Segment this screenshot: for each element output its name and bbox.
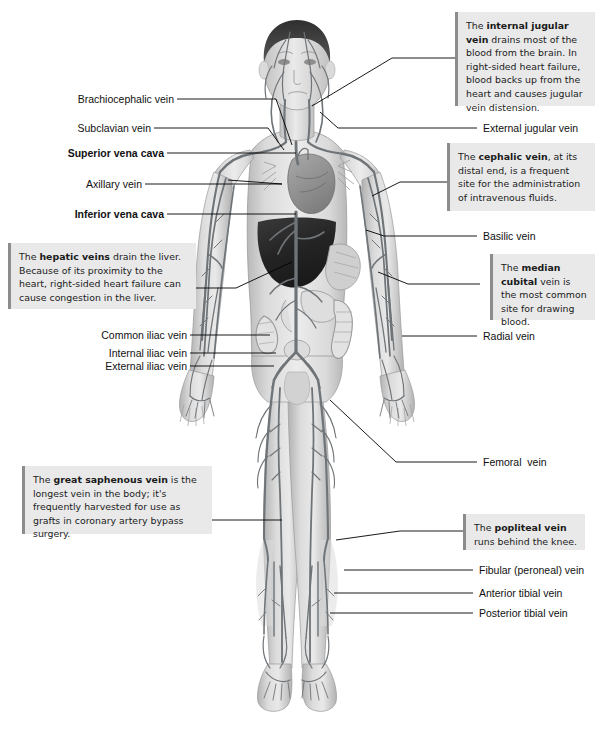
label-inferior-vena-cava: Inferior vena cava <box>75 208 164 220</box>
note-lead-text: The <box>501 262 521 273</box>
label-internal-iliac-vein: Internal iliac vein <box>109 347 187 359</box>
veins-diagram-canvas: Brachiocephalic vein Subclavian vein Sup… <box>0 0 595 734</box>
note-hepatic-veins: The hepatic veins drain the liver. Becau… <box>8 243 196 309</box>
note-lead-text: The <box>33 474 53 485</box>
note-great-saphenous-vein: The great saphenous vein is the longest … <box>22 466 212 534</box>
label-basilic-vein: Basilic vein <box>483 230 536 242</box>
note-popliteal-vein: The popliteal vein runs behind the knee. <box>463 514 585 550</box>
note-lead-text: The <box>458 151 478 162</box>
note-term: hepatic veins <box>39 251 110 262</box>
note-lead-text: The <box>474 522 494 533</box>
label-axillary-vein: Axillary vein <box>86 178 142 190</box>
label-anterior-tibial-vein: Anterior tibial vein <box>479 587 562 599</box>
note-lead-text: The <box>466 20 486 31</box>
label-subclavian-vein: Subclavian vein <box>77 122 151 134</box>
note-body-text: runs behind the knee. <box>474 536 577 547</box>
note-term: popliteal vein <box>494 522 566 533</box>
note-term: cephalic vein <box>478 151 547 162</box>
body-silhouette <box>179 20 414 711</box>
venous-network <box>186 32 408 700</box>
label-superior-vena-cava: Superior vena cava <box>68 147 164 159</box>
label-radial-vein: Radial vein <box>483 330 535 342</box>
note-median-cubital-vein: The median cubital vein is the most comm… <box>490 254 595 320</box>
label-fibular-peroneal-vein: Fibular (peroneal) vein <box>479 564 584 576</box>
note-lead-text: The <box>19 251 39 262</box>
note-term: great saphenous vein <box>53 474 167 485</box>
label-brachiocephalic-vein: Brachiocephalic vein <box>78 93 174 105</box>
note-cephalic-vein: The cephalic vein, at its distal end, is… <box>447 143 595 211</box>
note-internal-jugular-vein: The internal jugular vein drains most of… <box>455 12 595 106</box>
label-common-iliac-vein: Common iliac vein <box>101 329 187 341</box>
label-femoral-vein: Femoral vein <box>483 456 547 468</box>
note-body-text: drains most of the blood from the brain.… <box>466 34 583 113</box>
label-external-iliac-vein: External iliac vein <box>105 360 187 372</box>
label-external-jugular-vein: External jugular vein <box>483 122 578 134</box>
label-posterior-tibial-vein: Posterior tibial vein <box>479 607 568 619</box>
